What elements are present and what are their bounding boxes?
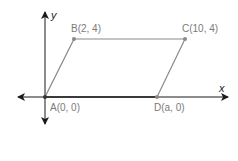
label-c: C(10, 4) xyxy=(182,23,218,34)
point-a xyxy=(43,95,47,99)
label-d: D(a, 0) xyxy=(154,102,185,113)
label-a: A(0, 0) xyxy=(50,102,80,113)
label-b: B(2, 4) xyxy=(71,23,101,34)
y-axis-label: y xyxy=(50,9,58,21)
point-d xyxy=(155,95,159,99)
x-axis-label: x xyxy=(218,82,225,94)
side-cd xyxy=(157,39,185,97)
point-b xyxy=(72,37,76,41)
point-c xyxy=(183,37,187,41)
parallelogram xyxy=(45,39,185,97)
coordinate-diagram: y x B(2, 4) C(10, 4) A(0, 0) D(a, 0) xyxy=(0,0,238,161)
side-ab xyxy=(45,39,74,97)
